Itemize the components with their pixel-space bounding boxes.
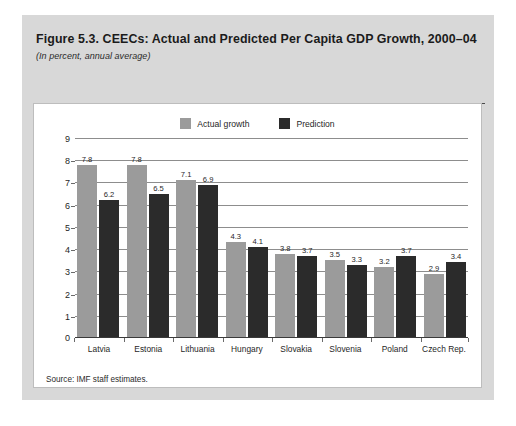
legend-swatch-actual bbox=[180, 118, 191, 129]
y-axis-tick-label: 5 bbox=[65, 223, 70, 233]
bar-column: 6.9 bbox=[198, 138, 218, 338]
legend-label: Prediction bbox=[296, 119, 334, 129]
bar-value-label: 3.2 bbox=[379, 257, 390, 266]
y-axis-tick-label: 4 bbox=[65, 245, 70, 255]
plot-inner: 0123456789 7.86.27.86.57.16.94.34.13.83.… bbox=[75, 138, 468, 338]
y-axis-tick-label: 1 bbox=[65, 312, 70, 322]
bar-group: 3.53.3 bbox=[325, 138, 367, 338]
x-axis-label: Estonia bbox=[126, 340, 170, 356]
x-axis-tick-mark bbox=[468, 338, 469, 342]
legend-item: Prediction bbox=[279, 118, 334, 129]
bar-column: 3.4 bbox=[446, 138, 466, 338]
bar-prediction bbox=[248, 247, 268, 338]
bar-group: 3.83.7 bbox=[275, 138, 317, 338]
figure-subtitle: (In percent, annual average) bbox=[36, 51, 480, 61]
bar-value-label: 3.8 bbox=[280, 244, 291, 253]
x-axis-label: Slovenia bbox=[323, 340, 367, 356]
bar-value-label: 3.4 bbox=[451, 252, 462, 261]
y-axis-tick-label: 2 bbox=[65, 290, 70, 300]
bar-group: 3.23.7 bbox=[374, 138, 416, 338]
source-note: Source: IMF staff estimates. bbox=[46, 375, 148, 384]
y-axis-tick-label: 3 bbox=[65, 267, 70, 277]
bar-prediction bbox=[99, 200, 119, 338]
legend-item: Actual growth bbox=[180, 118, 249, 129]
y-axis-tick-label: 7 bbox=[65, 178, 70, 188]
bar-actual bbox=[374, 267, 394, 338]
bar-column: 3.7 bbox=[297, 138, 317, 338]
bar-actual bbox=[176, 180, 196, 338]
bar-column: 3.8 bbox=[275, 138, 295, 338]
x-axis-label: Slovakia bbox=[274, 340, 318, 356]
bar-group: 7.86.5 bbox=[127, 138, 169, 338]
bar-value-label: 7.8 bbox=[131, 155, 142, 164]
bar-column: 4.3 bbox=[226, 138, 246, 338]
x-axis-line bbox=[75, 337, 468, 338]
chart-card: Actual growthPrediction 0123456789 7.86.… bbox=[33, 103, 482, 388]
bar-value-label: 6.2 bbox=[104, 190, 115, 199]
bar-value-label: 7.8 bbox=[82, 155, 93, 164]
x-axis-label: Latvia bbox=[77, 340, 121, 356]
y-axis-tick-label: 0 bbox=[65, 333, 70, 343]
bar-value-label: 4.3 bbox=[230, 232, 241, 241]
bar-actual bbox=[325, 260, 345, 338]
legend-swatch-prediction bbox=[279, 118, 290, 129]
bar-value-label: 6.5 bbox=[153, 184, 164, 193]
y-axis-tick-label: 6 bbox=[65, 201, 70, 211]
bar-column: 2.9 bbox=[424, 138, 444, 338]
bar-column: 7.8 bbox=[77, 138, 97, 338]
bar-actual bbox=[226, 242, 246, 338]
y-axis-tick-label: 9 bbox=[65, 134, 70, 144]
bar-column: 3.5 bbox=[325, 138, 345, 338]
bar-column: 6.2 bbox=[99, 138, 119, 338]
figure-title: Figure 5.3. CEECs: Actual and Predicted … bbox=[36, 31, 480, 47]
bar-value-label: 6.9 bbox=[203, 175, 214, 184]
bar-column: 7.1 bbox=[176, 138, 196, 338]
x-axis-label: Poland bbox=[373, 340, 417, 356]
bar-value-label: 3.7 bbox=[401, 246, 412, 255]
x-axis-label: Lithuania bbox=[176, 340, 220, 356]
bar-actual bbox=[275, 254, 295, 338]
chart-plot-area: 0123456789 7.86.27.86.57.16.94.34.13.83.… bbox=[56, 138, 474, 356]
bar-prediction bbox=[347, 265, 367, 338]
legend-label: Actual growth bbox=[197, 119, 249, 129]
bar-actual bbox=[77, 165, 97, 338]
chart-legend: Actual growthPrediction bbox=[34, 118, 481, 129]
bar-actual bbox=[127, 165, 147, 338]
bar-column: 3.7 bbox=[396, 138, 416, 338]
bar-prediction bbox=[446, 262, 466, 338]
bar-value-label: 3.5 bbox=[330, 250, 341, 259]
figure-header: Figure 5.3. CEECs: Actual and Predicted … bbox=[36, 31, 480, 61]
x-axis-label: Czech Rep. bbox=[422, 340, 466, 356]
bar-value-label: 3.7 bbox=[302, 246, 313, 255]
bar-column: 3.3 bbox=[347, 138, 367, 338]
bar-actual bbox=[424, 274, 444, 338]
bar-prediction bbox=[198, 185, 218, 338]
bar-prediction bbox=[149, 194, 169, 338]
bar-group: 7.86.2 bbox=[77, 138, 119, 338]
bar-group: 2.93.4 bbox=[424, 138, 466, 338]
bar-value-label: 4.1 bbox=[252, 237, 263, 246]
bar-value-label: 2.9 bbox=[429, 264, 440, 273]
bar-group: 4.34.1 bbox=[226, 138, 268, 338]
bar-column: 6.5 bbox=[149, 138, 169, 338]
bar-prediction bbox=[297, 256, 317, 338]
y-axis-tick-label: 8 bbox=[65, 156, 70, 166]
bar-prediction bbox=[396, 256, 416, 338]
bar-column: 7.8 bbox=[127, 138, 147, 338]
x-axis-label: Hungary bbox=[225, 340, 269, 356]
bar-value-label: 3.3 bbox=[352, 255, 363, 264]
x-axis-labels: LatviaEstoniaLithuaniaHungarySlovakiaSlo… bbox=[75, 340, 468, 356]
bar-column: 3.2 bbox=[374, 138, 394, 338]
bar-column: 4.1 bbox=[248, 138, 268, 338]
bar-groups: 7.86.27.86.57.16.94.34.13.83.73.53.33.23… bbox=[75, 138, 468, 338]
figure-panel: Figure 5.3. CEECs: Actual and Predicted … bbox=[22, 15, 494, 400]
bar-group: 7.16.9 bbox=[176, 138, 218, 338]
bar-value-label: 7.1 bbox=[181, 170, 192, 179]
